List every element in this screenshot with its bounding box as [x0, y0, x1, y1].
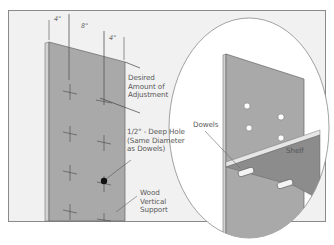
- dimension-middle: 8": [81, 22, 88, 30]
- detail-hole: [244, 103, 250, 109]
- detail-hole: [246, 125, 252, 131]
- label-support: Wood Vertical Support: [140, 189, 168, 215]
- detail-board-edge: [223, 54, 226, 245]
- dimension-left: 4": [54, 15, 61, 23]
- label-dowels: Dowels: [193, 121, 218, 130]
- label-hole: 1/2" - Deep Hole (Same Diameter as Dowel…: [127, 128, 185, 154]
- label-shelf: Shelf: [286, 147, 304, 156]
- diagram: 4" 8" 4" Desired Amount of Adjustment 1/…: [0, 0, 334, 245]
- dimension-right: 4": [109, 34, 116, 42]
- label-adjustment: Desired Amount of Adjustment: [128, 74, 168, 100]
- wood-vertical-support: [49, 42, 125, 221]
- detail-hole: [278, 135, 284, 141]
- board-edge: [45, 42, 49, 221]
- detail-hole: [278, 114, 284, 120]
